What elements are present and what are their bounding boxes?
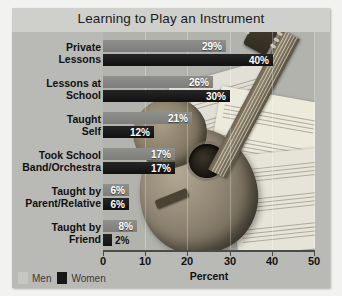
x-tick-20: 20	[181, 255, 193, 267]
x-tick-30: 30	[224, 255, 236, 267]
x-tick-40: 40	[266, 255, 278, 267]
bar-value: 21%	[168, 113, 188, 124]
bar-women-parent-relative: 6%	[103, 198, 129, 210]
bar-men-private-lessons: 29%	[103, 40, 226, 52]
bar-value: 26%	[189, 77, 209, 88]
label-line: Self	[15, 126, 101, 138]
chart-screenshot: Learning to Play an Instrument	[0, 0, 342, 296]
x-tick-0: 0	[100, 255, 106, 267]
label-line: Friend	[15, 234, 101, 246]
women-swatch	[57, 272, 67, 284]
bar-women-lessons-at-school: 30%	[103, 90, 230, 102]
label-line: Band/Orchestra	[15, 162, 101, 174]
x-axis-title: Percent	[103, 270, 315, 282]
label-line: Parent/Relative	[15, 198, 101, 210]
bar-value: 40%	[249, 55, 269, 66]
legend: Men Women	[18, 270, 106, 286]
legend-label-men: Men	[32, 273, 51, 284]
bar-men-school-band: 17%	[103, 148, 175, 160]
label-line: Private	[15, 42, 101, 54]
bar-value: 12%	[130, 127, 150, 138]
bar-men-parent-relative: 6%	[103, 184, 129, 196]
bar-men-lessons-at-school: 26%	[103, 76, 213, 88]
category-label-lessons-at-school: Lessons at School	[15, 78, 101, 101]
men-swatch	[18, 272, 28, 284]
x-axis-line	[103, 250, 315, 252]
bar-value: 29%	[202, 41, 222, 52]
x-tick-10: 10	[139, 255, 151, 267]
bar-value: 6%	[111, 199, 125, 210]
label-line: Lessons at	[15, 78, 101, 90]
bar-value: 2%	[115, 235, 129, 246]
category-axis: Private Lessons Lessons at School Taught…	[12, 32, 101, 250]
category-label-school-band: Took School Band/Orchestra	[15, 150, 101, 173]
legend-item-men: Men	[18, 272, 51, 284]
bar-women-school-band: 17%	[103, 162, 175, 174]
category-label-parent-relative: Taught by Parent/Relative	[15, 186, 101, 209]
category-label-taught-self: Taught Self	[15, 114, 101, 137]
bar-women-private-lessons: 40%	[103, 54, 273, 66]
label-line: Took School	[15, 150, 101, 162]
bar-value: 17%	[151, 163, 171, 174]
x-tick-50: 50	[308, 255, 320, 267]
category-label-taught-by-friend: Taught by Friend	[15, 222, 101, 245]
category-label-private-lessons: Private Lessons	[15, 42, 101, 65]
bar-women-taught-self: 12%	[103, 126, 154, 138]
bar-men-taught-by-friend: 8%	[103, 220, 137, 232]
label-line: School	[15, 90, 101, 102]
chart-title: Learning to Play an Instrument	[12, 11, 330, 26]
title-band: Learning to Play an Instrument	[12, 8, 330, 32]
legend-label-women: Women	[71, 273, 105, 284]
label-line: Taught	[15, 114, 101, 126]
bar-women-taught-by-friend: 2%	[103, 234, 112, 246]
legend-item-women: Women	[57, 272, 105, 284]
bar-men-taught-self: 21%	[103, 112, 192, 124]
chart-card: Learning to Play an Instrument	[12, 8, 330, 288]
bar-value: 30%	[206, 91, 226, 102]
label-line: Lessons	[15, 54, 101, 66]
bar-value: 8%	[119, 221, 133, 232]
label-line: Taught by	[15, 186, 101, 198]
plot-area: 29% 40% 26% 30% 21% 12% 17% 17% 6% 6% 8%	[103, 32, 315, 250]
label-line: Taught by	[15, 222, 101, 234]
bar-value: 17%	[151, 149, 171, 160]
bar-value: 6%	[111, 185, 125, 196]
